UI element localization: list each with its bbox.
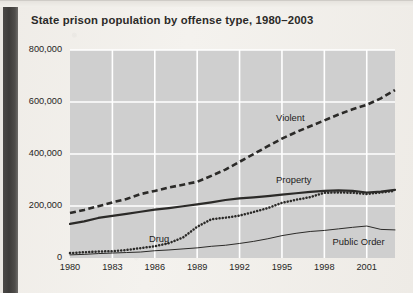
series-label-violent: Violent [276, 112, 305, 123]
y-tick-label: 400,000 [0, 148, 62, 158]
y-tick-label: 200,000 [0, 200, 62, 210]
x-tick-label: 2001 [347, 262, 387, 272]
y-tick-label: 800,000 [0, 44, 62, 54]
y-tick-label: 0 [0, 252, 62, 262]
x-tick-label: 1986 [135, 262, 175, 272]
x-tick-label: 1983 [92, 262, 132, 272]
series-label-public-order: Public Order [333, 236, 385, 247]
y-tick-label: 600,000 [0, 96, 62, 106]
data-series-group [70, 90, 395, 255]
series-line-violent [70, 90, 395, 213]
x-tick-label: 1998 [304, 262, 344, 272]
gridlines [70, 50, 395, 258]
series-label-drug: Drug [149, 233, 169, 244]
chart-figure: 0200,000400,000600,000800,000 1980198319… [0, 0, 413, 293]
x-tick-label: 1980 [50, 262, 90, 272]
x-tick-label: 1995 [262, 262, 302, 272]
x-tick-label: 1989 [177, 262, 217, 272]
series-line-property [70, 190, 395, 224]
series-label-property: Property [276, 174, 311, 185]
x-tick-label: 1992 [220, 262, 260, 272]
